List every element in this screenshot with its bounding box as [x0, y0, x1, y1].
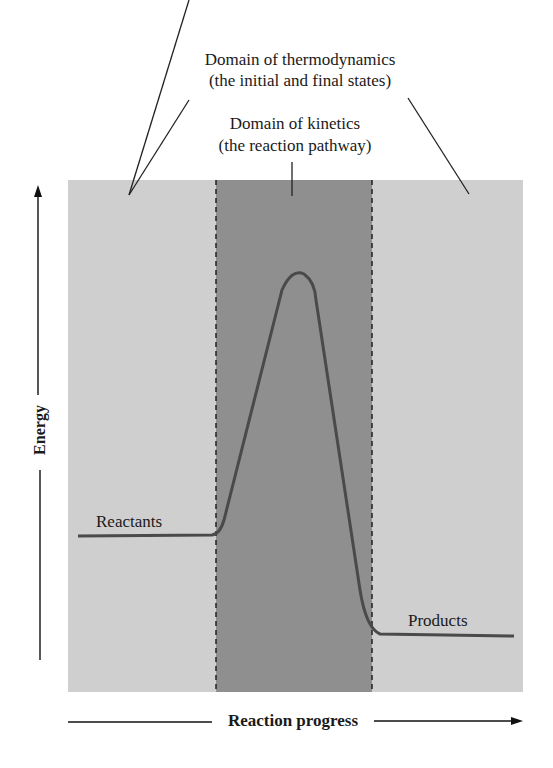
x-axis-label: Reaction progress — [214, 711, 372, 731]
thermo-title: Domain of thermodynamics — [185, 50, 415, 70]
y-axis-label: Energy — [30, 392, 50, 468]
kinetics-title: Domain of kinetics — [200, 114, 390, 134]
kinetics-subtitle: (the reaction pathway) — [195, 136, 395, 156]
y-axis-arrow-icon — [34, 185, 42, 197]
thermo-region-left — [68, 180, 216, 692]
thermo-leader-right — [408, 98, 469, 194]
thermo-subtitle: (the initial and final states) — [180, 71, 420, 91]
thermo-leader-left — [129, 0, 189, 195]
kinetics-region — [216, 180, 372, 692]
x-axis-arrow-icon — [511, 717, 523, 725]
products-label: Products — [408, 611, 468, 631]
reactants-label: Reactants — [96, 512, 162, 532]
